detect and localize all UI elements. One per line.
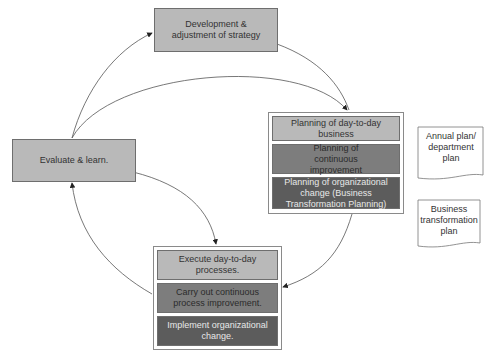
annual-plan-label: Annual plan/ department plan — [426, 131, 476, 163]
arrow-execution-to-evaluate — [72, 183, 152, 294]
execute-day-to-day: Execute day-to-day processes. — [157, 250, 278, 280]
arrow-evaluate-to-execution — [133, 172, 216, 244]
annual-plan-document: Annual plan/ department plan — [420, 131, 482, 164]
evaluate-box-label: Evaluate & learn. — [40, 155, 109, 166]
continuous-process-improvement: Carry out continuous process improvement… — [157, 283, 278, 313]
planning-organizational-change: Planning of organizational change (Busin… — [272, 177, 400, 209]
execute-day-to-day-label: Execute day-to-day processes. — [174, 254, 261, 276]
strategy-box: Development & adjustment of strategy — [154, 8, 278, 52]
planning-continuous-improvement: Planning of continuous improvement — [272, 144, 400, 174]
planning-day-to-day: Planning of day-to-day business — [272, 116, 400, 141]
transformation-plan-document: Business transformation plan — [419, 204, 479, 237]
arrow-strategy-to-planning — [277, 44, 349, 110]
implement-organizational-change: Implement organizational change. — [157, 316, 278, 346]
evaluate-box: Evaluate & learn. — [12, 139, 136, 182]
implement-organizational-change-label: Implement organizational change. — [166, 320, 269, 342]
strategy-box-label: Development & adjustment of strategy — [163, 19, 269, 41]
transformation-plan-label: Business transformation plan — [420, 204, 478, 236]
arrow-planning-to-execution — [283, 214, 352, 287]
planning-organizational-change-label: Planning of organizational change (Busin… — [275, 177, 397, 210]
continuous-process-improvement-label: Carry out continuous process improvement… — [166, 287, 269, 309]
planning-continuous-improvement-label: Planning of continuous improvement — [291, 143, 381, 176]
planning-day-to-day-label: Planning of day-to-day business — [273, 118, 399, 140]
